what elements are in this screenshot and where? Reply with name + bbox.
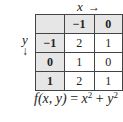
formula-plus: + [92,91,107,106]
table-row: 1 2 1 [36,72,123,91]
table-cell: 2 [64,34,94,53]
table-cell: 1 [64,53,94,72]
row-header: 1 [36,72,65,91]
row-header: 0 [36,53,65,72]
formula-equals: = [67,91,82,106]
down-arrow-icon: ↓ [20,46,30,56]
table-corner-cell [36,15,65,34]
formula-exponent: 2 [113,90,118,100]
table-header-row: −1 0 [36,15,123,34]
row-header: −1 [36,34,65,53]
x-axis-variable: x [77,0,83,14]
table-row: 0 1 0 [36,53,123,72]
formula-lhs: f(x, y) [34,91,67,106]
function-formula: f(x, y) = x2 + y2 [34,91,118,107]
table-cell: 1 [94,72,123,91]
column-header: 0 [94,15,123,34]
table-row: −1 2 1 [36,34,123,53]
table-cell: 2 [64,72,94,91]
y-axis-label: y ↓ [20,34,30,56]
right-arrow-icon: → [88,0,100,14]
table-cell: 1 [94,34,123,53]
table-cell: 0 [94,53,123,72]
function-value-table: −1 0 −1 2 1 0 1 0 1 2 1 [35,14,123,91]
x-axis-label: x → [77,0,100,14]
column-header: −1 [64,15,94,34]
